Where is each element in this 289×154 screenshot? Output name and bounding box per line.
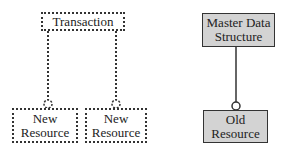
new-resource-box-2: New Resource [85,108,147,143]
optional-circle-icon [112,100,120,108]
old-resource-box: Old Resource [203,110,268,143]
master-data-structure-box: Master Data Structure [202,13,275,47]
new-resource-label-line1: New [104,112,129,126]
old-resource-label-line2: Resource [211,127,259,141]
master-data-label-line1: Master Data [207,16,271,30]
new-resource-label-line2: Resource [21,126,69,140]
new-resource-label-line1: New [33,112,58,126]
new-resource-label-line2: Resource [92,126,140,140]
optional-circle-icon [44,100,52,108]
transaction-box: Transaction [41,12,125,31]
transaction-label: Transaction [53,15,114,29]
master-data-label-line2: Structure [215,30,263,44]
optional-circle-icon [232,102,240,110]
new-resource-box-1: New Resource [12,108,78,143]
old-resource-label-line1: Old [226,113,246,127]
